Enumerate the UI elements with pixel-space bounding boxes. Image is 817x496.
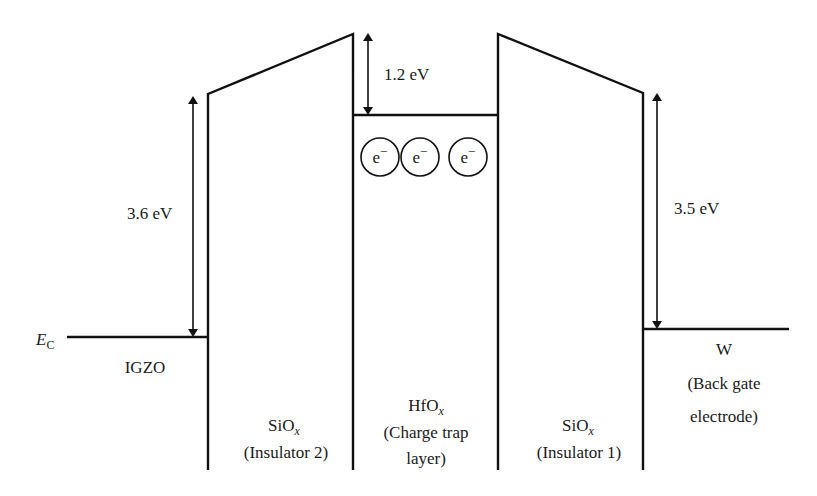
region-label-hfox: HfOx (Charge trap layer) [383, 396, 468, 468]
electron-1: e− [361, 138, 399, 176]
svg-text:e−: e− [413, 144, 428, 167]
band-diagram: 3.6 eV 1.2 eV 3.5 eV EC e− e− e− IGZO Si… [0, 0, 817, 496]
svg-text:SiOx: SiOx [562, 416, 594, 438]
svg-text:HfOx: HfOx [408, 396, 444, 418]
svg-text:electrode): electrode) [690, 407, 758, 426]
gap-label-3-5ev: 3.5 eV [674, 199, 720, 218]
region-label-insulator2: SiOx (Insulator 2) [244, 416, 329, 462]
svg-text:e−: e− [373, 144, 388, 167]
gap-label-3-6ev: 3.6 eV [127, 204, 173, 223]
svg-text:layer): layer) [406, 449, 446, 468]
svg-text:e−: e− [461, 144, 476, 167]
region-label-insulator1: SiOx (Insulator 1) [537, 416, 622, 462]
svg-text:(Charge trap: (Charge trap [383, 423, 468, 442]
region-label-igzo: IGZO [125, 358, 166, 377]
svg-text:(Back gate: (Back gate [687, 374, 760, 393]
ec-label: EC [35, 330, 54, 352]
insulator2-barrier [208, 34, 353, 470]
electron-2: e− [401, 138, 439, 176]
svg-text:(Insulator 1): (Insulator 1) [537, 443, 622, 462]
insulator1-barrier [498, 34, 643, 470]
gap-label-1-2ev: 1.2 eV [384, 65, 430, 84]
svg-text:(Insulator 2): (Insulator 2) [244, 443, 329, 462]
region-label-w-gate: W (Back gate electrode) [687, 340, 760, 426]
svg-text:W: W [716, 340, 733, 359]
svg-text:SiOx: SiOx [268, 416, 300, 438]
electron-3: e− [449, 138, 487, 176]
